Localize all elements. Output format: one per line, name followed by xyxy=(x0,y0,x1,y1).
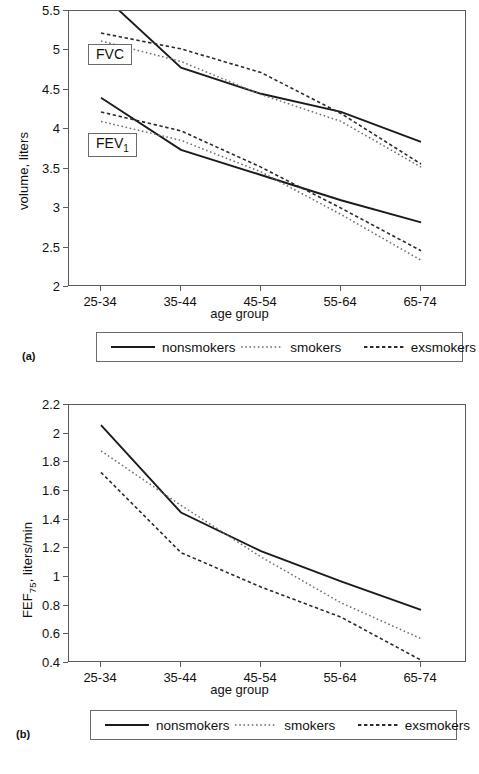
x-tick-mark xyxy=(420,286,421,291)
y-tick-label: 2.2 xyxy=(6,397,60,412)
y-tick-label: 0.4 xyxy=(6,655,60,670)
x-tick-mark xyxy=(340,662,341,667)
panel-a-annotation-fvc: FVC xyxy=(88,44,132,65)
legend-label: nonsmokers xyxy=(156,718,230,733)
series-line-smokers xyxy=(101,451,421,639)
panel-b-series-canvas xyxy=(69,405,467,663)
x-tick-mark xyxy=(260,662,261,667)
legend-label: smokers xyxy=(284,718,335,733)
y-tick-label: 4 xyxy=(6,121,60,136)
legend-swatch-solid-icon xyxy=(105,721,149,729)
panel-a-annotation-fev1: FEV1 xyxy=(88,133,137,157)
annotation-fvc-text: FVC xyxy=(96,46,124,62)
legend-label: exsmokers xyxy=(405,718,470,733)
y-tick-label: 2 xyxy=(6,425,60,440)
series-line-smokers-FVC xyxy=(101,41,421,167)
y-tick-label: 1.8 xyxy=(6,454,60,469)
legend-item-smokers: smokers xyxy=(235,718,335,733)
x-tick-mark xyxy=(260,286,261,291)
series-line-nonsmokers-FEV1 xyxy=(101,98,421,223)
legend-item-exsmokers: exsmokers xyxy=(364,340,476,355)
y-tick-label: 1.2 xyxy=(6,540,60,555)
y-tick-mark xyxy=(63,461,68,462)
figure-panel-a: volume, liters 22.533.544.555.5 25-3435-… xyxy=(0,0,479,375)
x-tick-mark xyxy=(100,286,101,291)
y-tick-mark xyxy=(63,404,68,405)
y-tick-label: 0.6 xyxy=(6,626,60,641)
y-tick-mark xyxy=(63,247,68,248)
series-line-nonsmokers xyxy=(101,425,421,610)
y-tick-label: 3.5 xyxy=(6,160,60,175)
y-tick-mark xyxy=(63,89,68,90)
legend-swatch-dashed-icon xyxy=(358,721,398,729)
y-tick-mark xyxy=(63,633,68,634)
y-tick-mark xyxy=(63,662,68,663)
figure-panel-b: FEF75, liters/min 0.40.60.811.21.41.61.8… xyxy=(0,388,479,774)
y-tick-label: 2.5 xyxy=(6,239,60,254)
panel-a-letter-text: (a) xyxy=(22,350,35,362)
y-tick-mark xyxy=(63,168,68,169)
legend-item-exsmokers: exsmokers xyxy=(358,718,470,733)
panel-b-letter: (b) xyxy=(16,728,30,740)
legend-label: smokers xyxy=(290,340,341,355)
series-line-exsmokers-FVC xyxy=(101,33,421,164)
y-tick-mark xyxy=(63,10,68,11)
y-tick-label: 1.4 xyxy=(6,511,60,526)
y-tick-label: 0.8 xyxy=(6,597,60,612)
legend-item-smokers: smokers xyxy=(241,340,341,355)
series-line-exsmokers xyxy=(101,472,421,660)
panel-b-x-axis-label-text: age group xyxy=(210,682,269,697)
y-tick-mark xyxy=(63,49,68,50)
x-tick-mark xyxy=(340,286,341,291)
x-tick-mark xyxy=(180,286,181,291)
series-line-exsmokers-FEV1 xyxy=(101,112,421,251)
panel-b-y-axis-label-subscript: 75 xyxy=(27,582,38,593)
panel-a-x-axis-label-text: age group xyxy=(210,306,269,321)
y-tick-mark xyxy=(63,605,68,606)
y-tick-label: 2 xyxy=(6,279,60,294)
y-tick-mark xyxy=(63,547,68,548)
series-line-smokers-FEV1 xyxy=(101,121,421,260)
legend-label: exsmokers xyxy=(411,340,476,355)
panel-a-legend: nonsmokerssmokersexsmokers xyxy=(96,332,463,362)
y-tick-mark xyxy=(63,576,68,577)
y-tick-label: 3 xyxy=(6,200,60,215)
y-tick-mark xyxy=(63,207,68,208)
legend-swatch-dotted-icon xyxy=(241,343,283,351)
y-tick-mark xyxy=(63,128,68,129)
panel-a-x-axis-label: age group xyxy=(0,306,479,321)
series-line-nonsmokers-FVC xyxy=(101,11,421,142)
y-tick-mark xyxy=(63,433,68,434)
legend-item-nonsmokers: nonsmokers xyxy=(111,340,236,355)
y-tick-label: 4.5 xyxy=(6,81,60,96)
panel-b-legend: nonsmokerssmokersexsmokers xyxy=(90,710,457,740)
panel-b-x-axis-label: age group xyxy=(0,682,479,697)
legend-swatch-dashed-icon xyxy=(364,343,404,351)
y-tick-label: 1 xyxy=(6,569,60,584)
y-tick-mark xyxy=(63,519,68,520)
y-tick-mark xyxy=(63,286,68,287)
y-tick-label: 5 xyxy=(6,42,60,57)
legend-label: nonsmokers xyxy=(162,340,236,355)
annotation-fev1-subscript: 1 xyxy=(123,143,129,154)
panel-b-plot-area xyxy=(68,404,466,662)
legend-swatch-dotted-icon xyxy=(235,721,277,729)
y-tick-label: 5.5 xyxy=(6,3,60,18)
legend-swatch-solid-icon xyxy=(111,343,155,351)
x-tick-mark xyxy=(100,662,101,667)
x-tick-mark xyxy=(420,662,421,667)
x-tick-mark xyxy=(180,662,181,667)
legend-item-nonsmokers: nonsmokers xyxy=(105,718,230,733)
y-tick-label: 1.6 xyxy=(6,483,60,498)
annotation-fev1-text: FEV xyxy=(96,135,123,151)
y-tick-mark xyxy=(63,490,68,491)
panel-a-letter: (a) xyxy=(22,350,35,362)
panel-b-letter-text: (b) xyxy=(16,728,30,740)
